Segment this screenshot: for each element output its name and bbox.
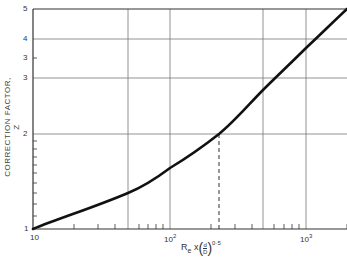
x-axis-exponent: 0·5	[212, 240, 221, 246]
x-tick-1000-base: 10	[300, 235, 309, 244]
y-tick-1: 1	[24, 224, 28, 233]
x-axis-title: Re x(dD)0·5	[181, 240, 221, 256]
chart-canvas	[0, 0, 347, 264]
x-tick-1000: 103	[300, 233, 312, 244]
y-tick-3-minor: 3	[23, 53, 27, 62]
x-tick-100: 102	[164, 233, 176, 244]
x-tick-10: 10	[30, 233, 39, 242]
x-tick-100-base: 10	[164, 235, 173, 244]
correction-curve	[33, 9, 347, 229]
grid	[33, 9, 347, 229]
y-axis-title: CORRECTION FACTOR, Z	[3, 77, 21, 177]
y-tick-3: 3	[23, 73, 27, 82]
y-tick-2: 2	[23, 129, 27, 138]
y-tick-4: 4	[23, 34, 27, 43]
x-tick-100-exp: 2	[173, 233, 176, 239]
x-axis-e: e	[188, 247, 192, 254]
axes	[33, 9, 347, 229]
y-tick-5: 5	[23, 4, 27, 13]
x-tick-1000-exp: 3	[309, 233, 312, 239]
